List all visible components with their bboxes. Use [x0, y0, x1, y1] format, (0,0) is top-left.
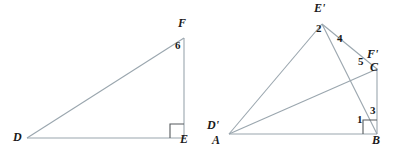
segment-C-A — [229, 69, 377, 134]
vertex-label-C: C — [370, 61, 378, 73]
vertex-label-A: A — [212, 134, 220, 146]
vertex-label-F: F — [178, 17, 186, 29]
angle-label-5: 5 — [358, 56, 364, 67]
angle-label-4: 4 — [337, 33, 343, 44]
segment-A-Eprime — [229, 24, 322, 134]
vertex-label-D-prime: D' — [207, 119, 219, 131]
geometry-canvas — [0, 0, 408, 165]
segment-Eprime-B — [322, 24, 377, 134]
vertex-label-F-prime: F' — [367, 48, 378, 60]
angle-label-2: 2 — [316, 23, 322, 34]
side-label-EF-length: 6 — [175, 40, 181, 51]
angle-label-3: 3 — [370, 105, 376, 116]
segment-F-D — [27, 38, 184, 138]
geometry-figure: D E F 6 D' A B F' C E' 1 2 3 4 5 — [0, 0, 408, 165]
right-angle-mark-B — [363, 120, 377, 134]
angle-label-1: 1 — [357, 114, 363, 125]
vertex-label-B: B — [372, 134, 380, 146]
vertex-label-D: D — [13, 131, 22, 143]
right-figure-triangles — [229, 24, 377, 134]
vertex-label-E-prime: E' — [314, 2, 325, 14]
vertex-label-E: E — [180, 133, 188, 145]
left-triangle-DEF — [27, 38, 184, 138]
